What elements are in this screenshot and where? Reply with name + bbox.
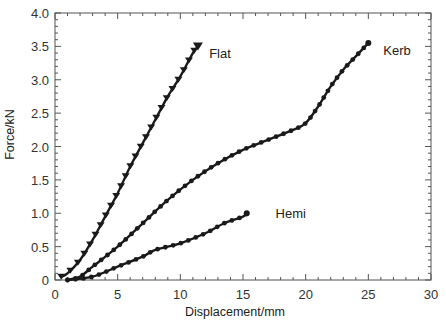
circle-marker-icon xyxy=(104,269,109,274)
circle-marker-icon xyxy=(163,245,168,250)
circle-marker-icon xyxy=(73,277,78,282)
y-tick-label: 2.0 xyxy=(31,140,49,155)
axis-ticks xyxy=(55,13,431,280)
x-tick-label: 15 xyxy=(236,287,250,302)
triangle-marker-icon xyxy=(152,115,160,121)
circle-marker-icon xyxy=(303,121,308,126)
y-tick-label: 4.0 xyxy=(31,6,49,21)
circle-marker-icon xyxy=(201,232,206,237)
circle-marker-icon xyxy=(155,247,160,252)
circle-marker-icon xyxy=(126,260,131,265)
triangle-marker-icon xyxy=(131,153,139,159)
triangle-marker-icon xyxy=(126,163,134,169)
circle-marker-icon xyxy=(321,95,326,100)
data-series: FlatKerbHemi xyxy=(57,40,411,282)
series-flat: Flat xyxy=(57,42,231,279)
circle-marker-icon xyxy=(195,174,200,179)
circle-marker-icon xyxy=(129,231,134,236)
circle-marker-icon xyxy=(105,253,110,258)
circle-marker-icon xyxy=(230,153,235,158)
triangle-marker-icon xyxy=(157,105,165,111)
x-tick-label: 10 xyxy=(173,287,187,302)
circle-marker-icon xyxy=(340,69,345,74)
x-tick-label: 0 xyxy=(51,287,58,302)
circle-marker-icon xyxy=(111,266,116,271)
circle-marker-icon xyxy=(237,149,242,154)
triangle-marker-icon xyxy=(122,173,130,179)
circle-marker-icon xyxy=(296,125,301,130)
triangle-marker-icon xyxy=(147,124,155,130)
x-tick-labels: 051015202530 xyxy=(51,287,438,302)
y-tick-label: 0.5 xyxy=(31,240,49,255)
circle-marker-icon xyxy=(216,161,221,166)
circle-marker-icon xyxy=(123,237,128,242)
circle-marker-icon xyxy=(208,228,213,233)
triangle-marker-icon xyxy=(86,241,94,247)
circle-marker-icon xyxy=(215,224,220,229)
circle-marker-icon xyxy=(135,226,140,231)
circle-marker-icon xyxy=(92,262,97,267)
circle-marker-icon xyxy=(193,235,198,240)
circle-marker-icon xyxy=(119,263,124,268)
circle-marker-icon xyxy=(81,276,86,281)
circle-marker-icon xyxy=(65,278,70,283)
y-tick-label: 3.5 xyxy=(31,39,49,54)
triangle-marker-icon xyxy=(174,77,182,83)
circle-marker-icon xyxy=(345,63,350,68)
circle-marker-icon xyxy=(202,169,207,174)
circle-marker-icon xyxy=(189,179,194,184)
y-tick-label: 2.5 xyxy=(31,106,49,121)
circle-marker-icon xyxy=(308,115,313,120)
y-tick-labels: 00.51.01.52.02.53.03.54.0 xyxy=(31,6,49,288)
circle-marker-icon xyxy=(89,275,94,280)
circle-marker-icon xyxy=(356,51,361,56)
series-label-flat: Flat xyxy=(209,46,231,61)
y-tick-label: 1.0 xyxy=(31,206,49,221)
circle-marker-icon xyxy=(237,216,242,221)
triangle-marker-icon xyxy=(137,144,145,150)
x-tick-label: 20 xyxy=(298,287,312,302)
circle-marker-icon xyxy=(259,140,264,145)
y-tick-label: 0 xyxy=(42,273,49,288)
x-tick-label: 25 xyxy=(361,287,375,302)
series-label-hemi: Hemi xyxy=(276,206,306,221)
y-tick-label: 3.0 xyxy=(31,73,49,88)
circle-marker-icon xyxy=(171,243,176,248)
circle-marker-icon xyxy=(178,241,183,246)
y-axis-title: Force/kN xyxy=(3,109,17,160)
force-displacement-chart: 051015202530 00.51.01.52.02.53.03.54.0 F… xyxy=(0,0,446,328)
triangle-marker-icon xyxy=(117,183,125,189)
circle-marker-icon xyxy=(134,257,139,262)
circle-marker-icon xyxy=(317,102,322,107)
circle-marker-icon xyxy=(313,109,318,114)
circle-marker-icon xyxy=(176,188,181,193)
circle-marker-icon xyxy=(274,134,279,139)
triangle-marker-icon xyxy=(102,212,110,218)
circle-marker-icon xyxy=(152,209,157,214)
circle-marker-icon xyxy=(141,254,146,259)
series-hemi: Hemi xyxy=(65,206,306,282)
circle-marker-icon xyxy=(244,146,249,151)
circle-marker-icon xyxy=(222,221,227,226)
triangle-marker-icon xyxy=(112,193,120,199)
circle-marker-icon xyxy=(223,157,228,162)
plot-frame xyxy=(55,13,431,280)
circle-marker-icon xyxy=(141,220,146,225)
series-kerb: Kerb xyxy=(65,40,411,282)
triangle-marker-icon xyxy=(97,222,105,228)
circle-marker-icon xyxy=(186,238,191,243)
triangle-marker-icon xyxy=(185,57,193,63)
circle-marker-icon xyxy=(361,46,366,51)
circle-marker-icon xyxy=(330,82,335,87)
triangle-marker-icon xyxy=(91,232,99,238)
x-tick-label: 30 xyxy=(424,287,438,302)
circle-marker-icon xyxy=(97,272,102,277)
circle-marker-icon xyxy=(335,75,340,80)
circle-marker-icon xyxy=(99,258,104,263)
circle-marker-icon xyxy=(326,88,331,93)
circle-marker-icon xyxy=(147,215,152,220)
circle-marker-icon xyxy=(289,128,294,133)
circle-marker-icon xyxy=(183,183,188,188)
circle-marker-icon xyxy=(148,250,153,255)
circle-marker-icon xyxy=(117,242,122,247)
